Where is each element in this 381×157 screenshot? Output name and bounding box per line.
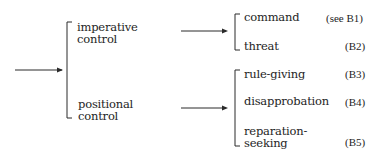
label-disapprobation: disapprobation: [244, 95, 329, 107]
label-line: seeking: [244, 137, 307, 149]
label-positional-control: positional control: [78, 98, 133, 122]
ref-disapprobation: (B4): [345, 96, 365, 108]
label-reparation-seeking: reparation- seeking: [244, 125, 307, 149]
label-rule-giving: rule-giving: [244, 68, 305, 80]
label-line: control: [78, 110, 133, 122]
ref-reparation-seeking: (B5): [345, 136, 365, 148]
bracket-imperative: [235, 14, 240, 50]
bracket-positional: [235, 70, 240, 146]
arrow-positional: [181, 106, 228, 111]
label-line: control: [77, 33, 138, 45]
ref-rule-giving: (B3): [345, 68, 365, 80]
connector-lines: [0, 0, 381, 157]
ref-threat: (B2): [345, 40, 365, 52]
arrow-imperative: [181, 29, 228, 34]
label-command: command: [244, 11, 299, 23]
bracket-level1: [67, 22, 72, 118]
label-imperative-control: imperative control: [77, 21, 138, 45]
ref-command: (see B1): [326, 12, 363, 24]
label-threat: threat: [244, 40, 279, 52]
root-arrow: [15, 68, 63, 73]
